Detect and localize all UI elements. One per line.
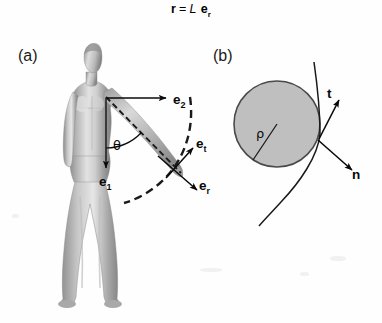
radius-label-rho: ρ (256, 126, 264, 141)
vector-n-arrow (318, 140, 352, 170)
figure-root: r=Ler (a) (b) (0, 0, 382, 323)
scan-artifact (300, 272, 309, 276)
scan-artifact (330, 256, 346, 261)
scan-artifact (200, 268, 222, 272)
scan-artifact (12, 214, 19, 218)
vector-label-t: t (327, 86, 332, 101)
vector-t-arrow (319, 100, 339, 139)
vector-label-n: n (352, 167, 360, 182)
figure-b-graphics (0, 0, 382, 323)
